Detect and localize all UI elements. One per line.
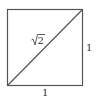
diagonal-label: 2 [32,35,46,47]
side-label-right: 1 [86,42,92,53]
square-diagram: 2 1 1 [0,0,105,97]
side-label-bottom: 1 [42,87,48,97]
diagonal-line [8,10,83,86]
radicand-text: 2 [38,35,44,46]
